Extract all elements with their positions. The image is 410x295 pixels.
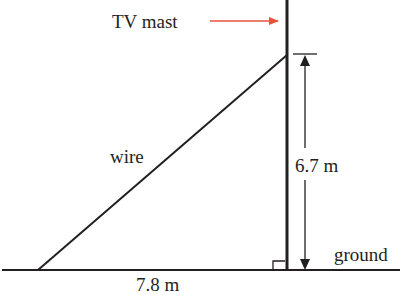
right-angle-marker — [273, 261, 285, 270]
label-ground: ground — [334, 244, 388, 265]
arrow-down-icon — [300, 259, 310, 270]
label-wire: wire — [110, 146, 144, 167]
label-height: 6.7 m — [295, 155, 339, 176]
label-tv-mast: TV mast — [112, 11, 178, 32]
label-base: 7.8 m — [136, 274, 180, 295]
arrow-up-icon — [300, 55, 310, 66]
diagram-canvas: TV mast wire 6.7 m 7.8 m ground — [0, 0, 410, 295]
mast-wire-diagram: TV mast wire 6.7 m 7.8 m ground — [0, 0, 410, 295]
wire-line — [38, 55, 287, 270]
